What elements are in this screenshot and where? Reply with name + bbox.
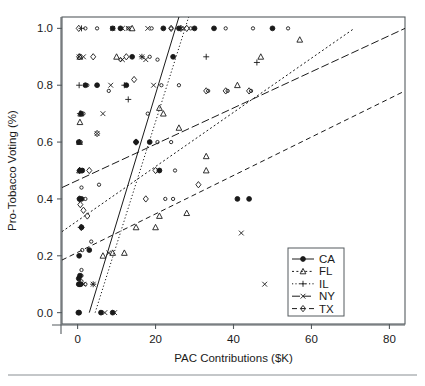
data-point bbox=[192, 26, 197, 31]
data-point bbox=[108, 83, 113, 88]
data-point bbox=[80, 268, 83, 271]
data-point bbox=[239, 231, 244, 236]
data-point bbox=[80, 186, 83, 189]
data-point bbox=[114, 54, 120, 59]
series-overlay-points bbox=[79, 27, 290, 315]
fit-line-CA bbox=[89, 17, 179, 313]
chart-figure: 0204060800.00.20.40.60.81.0PAC Contribut… bbox=[0, 0, 425, 386]
data-point bbox=[84, 283, 87, 286]
legend-marker-CA bbox=[301, 257, 306, 262]
data-point bbox=[203, 168, 209, 173]
data-point bbox=[235, 197, 240, 202]
data-point bbox=[77, 119, 83, 124]
data-point bbox=[184, 25, 189, 31]
data-point bbox=[171, 54, 176, 59]
data-point bbox=[100, 253, 106, 258]
plot-area-border bbox=[62, 17, 405, 324]
data-point bbox=[169, 140, 172, 143]
data-point bbox=[157, 105, 163, 110]
x-tick-label: 0 bbox=[74, 333, 80, 345]
data-point bbox=[143, 57, 148, 62]
data-point bbox=[177, 84, 180, 87]
x-tick-label: 20 bbox=[149, 333, 162, 345]
legend-label-IL: IL bbox=[319, 278, 329, 290]
data-point bbox=[77, 310, 82, 315]
data-point bbox=[157, 213, 163, 218]
scatter-plot-svg: 0204060800.00.20.40.60.81.0PAC Contribut… bbox=[0, 0, 425, 386]
data-point bbox=[133, 224, 139, 229]
y-tick-label: 1.0 bbox=[37, 22, 53, 34]
x-tick-label: 60 bbox=[305, 333, 318, 345]
data-point bbox=[164, 197, 167, 200]
data-point bbox=[203, 153, 209, 158]
fit-line-TX bbox=[62, 91, 405, 260]
data-point bbox=[107, 89, 110, 92]
data-point bbox=[171, 197, 174, 200]
data-point bbox=[87, 248, 92, 253]
series-IL bbox=[76, 17, 260, 313]
legend-label-NY: NY bbox=[319, 290, 335, 302]
data-point bbox=[212, 26, 217, 31]
data-point bbox=[254, 59, 260, 65]
data-point bbox=[235, 82, 241, 87]
y-axis-title: Pro-Tobacco Voting (%) bbox=[6, 110, 18, 231]
data-point bbox=[101, 111, 106, 116]
fit-line-NY bbox=[62, 28, 405, 187]
data-point bbox=[78, 201, 83, 207]
legend-label-CA: CA bbox=[319, 253, 335, 265]
series-FL bbox=[62, 25, 354, 258]
series-CA bbox=[76, 17, 275, 315]
data-point bbox=[224, 27, 227, 30]
data-point bbox=[160, 84, 163, 87]
data-point bbox=[169, 27, 172, 30]
data-point bbox=[258, 54, 264, 59]
data-point bbox=[297, 37, 303, 42]
data-point bbox=[97, 183, 100, 186]
legend-label-TX: TX bbox=[319, 303, 334, 315]
data-point bbox=[125, 96, 131, 102]
data-point bbox=[124, 54, 129, 60]
data-point bbox=[176, 125, 182, 130]
x-axis-title: PAC Contributions ($K) bbox=[174, 352, 293, 364]
series-TX bbox=[62, 25, 405, 260]
data-point bbox=[173, 169, 176, 172]
data-point bbox=[122, 250, 128, 255]
data-point bbox=[130, 54, 135, 59]
data-point bbox=[132, 76, 137, 82]
legend-box bbox=[288, 248, 344, 316]
data-point bbox=[148, 55, 151, 58]
data-point bbox=[76, 82, 82, 88]
data-point bbox=[251, 27, 254, 30]
data-point bbox=[247, 197, 252, 202]
data-point bbox=[87, 167, 92, 173]
fit-line-IL bbox=[95, 17, 189, 313]
data-point bbox=[286, 27, 289, 30]
data-point bbox=[143, 196, 148, 202]
data-point bbox=[160, 111, 166, 116]
data-point bbox=[151, 83, 156, 88]
y-tick-label: 0.4 bbox=[37, 193, 54, 205]
series-NY bbox=[62, 26, 405, 315]
data-point bbox=[145, 26, 150, 31]
fit-line-FL bbox=[62, 28, 354, 231]
data-point bbox=[90, 240, 93, 243]
data-point bbox=[196, 182, 201, 188]
y-tick-label: 0.8 bbox=[37, 79, 53, 91]
x-tick-label: 40 bbox=[227, 333, 240, 345]
data-point bbox=[177, 26, 182, 31]
data-point bbox=[270, 26, 275, 31]
legend-label-FL: FL bbox=[319, 265, 333, 277]
data-point bbox=[184, 210, 190, 215]
data-point bbox=[146, 112, 149, 115]
data-point bbox=[81, 207, 86, 213]
y-tick-label: 0.2 bbox=[37, 250, 53, 262]
data-point bbox=[91, 54, 96, 60]
data-point bbox=[150, 27, 153, 30]
data-point bbox=[203, 54, 209, 60]
x-tick-label: 80 bbox=[383, 333, 396, 345]
data-point bbox=[95, 27, 98, 30]
data-point bbox=[161, 26, 166, 31]
y-tick-label: 0.6 bbox=[37, 136, 53, 148]
data-point bbox=[262, 282, 267, 287]
data-point bbox=[153, 224, 159, 229]
